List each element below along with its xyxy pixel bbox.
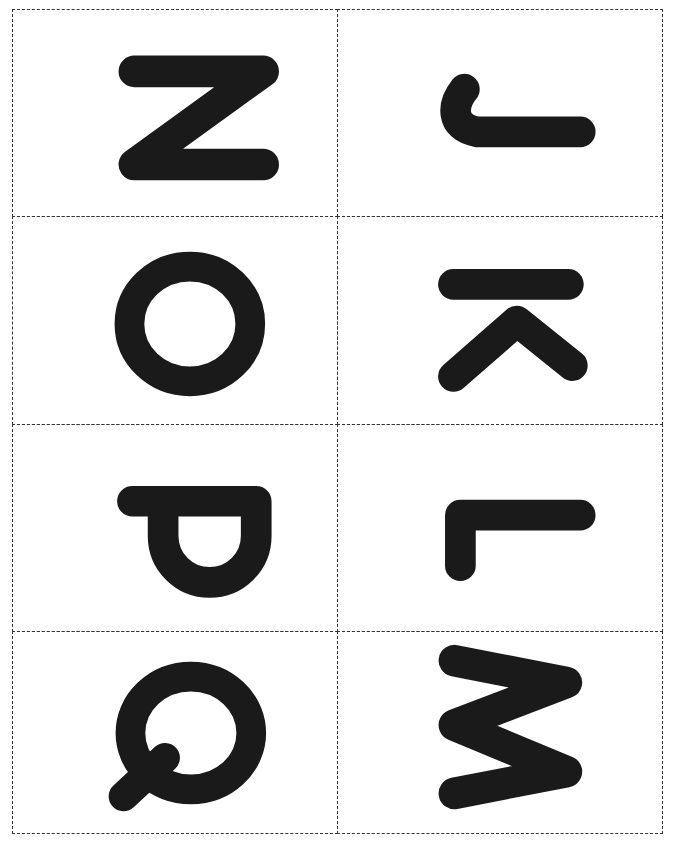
card-k: K: [337, 216, 663, 425]
letter-z-glyph: [13, 10, 337, 216]
letter-j-glyph: [338, 10, 662, 216]
letter-l-glyph: [338, 425, 662, 631]
letter-p-glyph: [13, 425, 337, 631]
card-q: Q: [12, 631, 338, 834]
card-j: J: [337, 9, 663, 217]
letter-k-glyph: [338, 217, 662, 424]
card-o: O: [12, 216, 338, 425]
letter-card-sheet: Z J O K P L Q: [12, 9, 663, 834]
card-l: L: [337, 424, 663, 632]
card-p: P: [12, 424, 338, 632]
card-m: M: [337, 631, 663, 834]
letter-o-glyph: [13, 217, 337, 424]
card-z: Z: [12, 9, 338, 217]
letter-m-glyph: [338, 632, 662, 833]
letter-q-glyph: [13, 632, 337, 833]
